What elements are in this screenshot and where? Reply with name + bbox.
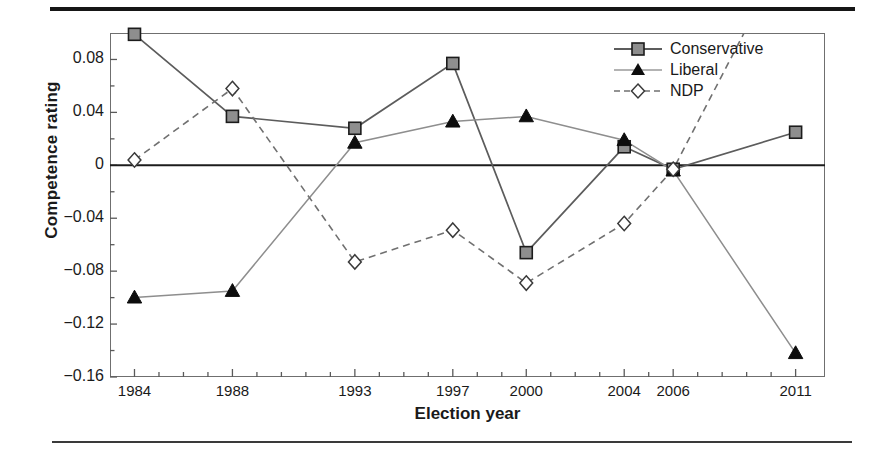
- figure-container: 0.080.040−0.04−0.08−0.12−0.16 1984198819…: [0, 0, 870, 454]
- x-tick-label: 1997: [423, 382, 483, 399]
- y-axis-label: Competence rating: [42, 45, 62, 275]
- y-tick-label: −0.12: [44, 315, 104, 331]
- legend-item-conservative: Conservative: [612, 38, 763, 59]
- legend-item-liberal: Liberal: [612, 59, 763, 80]
- x-tick-label: 2000: [496, 382, 556, 399]
- legend-label: Conservative: [664, 38, 763, 59]
- x-tick-label: 1993: [325, 382, 385, 399]
- x-tick-label: 2006: [643, 382, 703, 399]
- chart-legend: ConservativeLiberalNDP: [612, 38, 763, 101]
- y-tick-label: −0.16: [44, 368, 104, 384]
- legend-label: Liberal: [664, 59, 718, 80]
- x-tick-label: 2011: [766, 382, 826, 399]
- bottom-horizontal-rule: [52, 441, 852, 443]
- x-axis-label: Election year: [110, 404, 825, 424]
- x-tick-label: 1984: [104, 382, 164, 399]
- filled-triangle-marker: [612, 60, 664, 80]
- open-diamond-marker: [612, 81, 664, 101]
- legend-item-ndp: NDP: [612, 80, 763, 101]
- legend-label: NDP: [664, 80, 704, 101]
- filled-square-marker: [612, 39, 664, 59]
- x-tick-label: 1988: [202, 382, 262, 399]
- top-horizontal-rule: [50, 7, 855, 11]
